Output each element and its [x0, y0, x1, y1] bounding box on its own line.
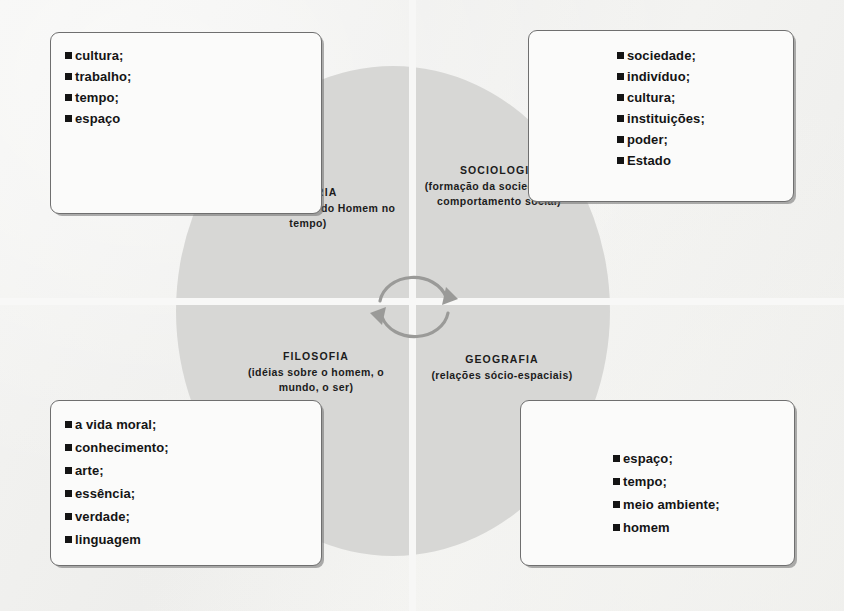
list-item-label: linguagem	[75, 532, 141, 547]
list-item: trabalho;	[65, 66, 321, 87]
quadrant-label-filosofia: FILOSOFIA (idéias sobre o homem, o mundo…	[228, 349, 404, 395]
list-item: espaço;	[613, 447, 794, 470]
list-item: cultura;	[65, 45, 321, 66]
list-item-label: homem	[623, 520, 670, 535]
quadrant-label-geografia: GEOGRAFIA (relações sócio-espaciais)	[424, 352, 580, 383]
topics-list-filosofia: a vida moral; conhecimento; arte; essênc…	[51, 401, 321, 551]
list-item: verdade;	[65, 505, 321, 528]
topics-box-sociologia: sociedade; indivíduo; cultura; instituiç…	[528, 30, 794, 202]
bullet-icon	[617, 73, 624, 80]
list-item-label: espaço;	[623, 451, 673, 466]
list-item: essência;	[65, 482, 321, 505]
topics-box-filosofia: a vida moral; conhecimento; arte; essênc…	[50, 400, 322, 566]
bullet-icon	[65, 490, 72, 497]
bullet-icon	[613, 501, 620, 508]
list-item: meio ambiente;	[613, 493, 794, 516]
list-item-label: arte;	[75, 463, 104, 478]
list-item-label: sociedade;	[627, 48, 696, 63]
list-item: instituições;	[617, 108, 793, 129]
bullet-icon	[65, 444, 72, 451]
list-item: linguagem	[65, 528, 321, 551]
list-item-label: conhecimento;	[75, 440, 169, 455]
bullet-icon	[65, 115, 72, 122]
bullet-icon	[65, 513, 72, 520]
quadrant-subtitle-geografia: (relações sócio-espaciais)	[424, 368, 580, 383]
list-item: a vida moral;	[65, 413, 321, 436]
bullet-icon	[65, 536, 72, 543]
bullet-icon	[65, 421, 72, 428]
bullet-icon	[617, 157, 624, 164]
topics-list-sociologia: sociedade; indivíduo; cultura; instituiç…	[529, 31, 793, 171]
list-item-label: poder;	[627, 132, 668, 147]
list-item: Estado	[617, 150, 793, 171]
list-item-label: instituições;	[627, 111, 705, 126]
topics-box-geografia: espaço; tempo; meio ambiente; homem	[520, 400, 795, 566]
list-item: espaço	[65, 108, 321, 129]
bullet-icon	[65, 94, 72, 101]
list-item: conhecimento;	[65, 436, 321, 459]
list-item-label: meio ambiente;	[623, 497, 720, 512]
list-item-label: verdade;	[75, 509, 130, 524]
bullet-icon	[65, 73, 72, 80]
bullet-icon	[617, 115, 624, 122]
topics-list-historia: cultura; trabalho; tempo; espaço	[51, 33, 321, 129]
list-item-label: espaço	[75, 111, 120, 126]
bullet-icon	[617, 52, 624, 59]
list-item: homem	[613, 516, 794, 539]
bullet-icon	[613, 455, 620, 462]
bullet-icon	[65, 467, 72, 474]
list-item-label: Estado	[627, 153, 671, 168]
list-item: indivíduo;	[617, 66, 793, 87]
list-item-label: tempo;	[623, 474, 667, 489]
bullet-icon	[613, 524, 620, 531]
list-item-label: cultura;	[75, 48, 123, 63]
list-item-label: a vida moral;	[75, 417, 157, 432]
topics-box-historia: cultura; trabalho; tempo; espaço	[50, 32, 322, 214]
bullet-icon	[617, 94, 624, 101]
list-item: poder;	[617, 129, 793, 150]
list-item-label: essência;	[75, 486, 135, 501]
list-item-label: trabalho;	[75, 69, 132, 84]
list-item: tempo;	[65, 87, 321, 108]
bullet-icon	[613, 478, 620, 485]
list-item-label: cultura;	[627, 90, 675, 105]
cycle-arrows-icon	[358, 255, 470, 355]
list-item: cultura;	[617, 87, 793, 108]
list-item: tempo;	[613, 470, 794, 493]
diagram-canvas: HISTÓRIA (Desenvolvimento do Homem no te…	[0, 0, 844, 611]
list-item-label: indivíduo;	[627, 69, 690, 84]
quadrant-subtitle-filosofia: (idéias sobre o homem, o mundo, o ser)	[228, 365, 404, 395]
bullet-icon	[65, 52, 72, 59]
bullet-icon	[617, 136, 624, 143]
topics-list-geografia: espaço; tempo; meio ambiente; homem	[521, 401, 794, 539]
list-item-label: tempo;	[75, 90, 119, 105]
list-item: sociedade;	[617, 45, 793, 66]
list-item: arte;	[65, 459, 321, 482]
